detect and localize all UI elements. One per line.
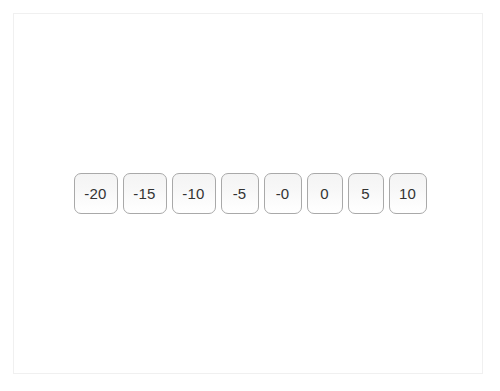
number-button-neg10[interactable]: -10 bbox=[172, 173, 216, 214]
number-button-neg20[interactable]: -20 bbox=[74, 173, 118, 214]
number-button-5[interactable]: 5 bbox=[348, 173, 384, 214]
number-button-neg5[interactable]: -5 bbox=[221, 173, 259, 214]
number-button-neg0[interactable]: -0 bbox=[264, 173, 302, 214]
number-button-neg15[interactable]: -15 bbox=[123, 173, 167, 214]
number-button-10[interactable]: 10 bbox=[389, 173, 427, 214]
number-button-row: -20-15-10-5-00510 bbox=[0, 172, 500, 214]
number-button-0[interactable]: 0 bbox=[307, 173, 343, 214]
